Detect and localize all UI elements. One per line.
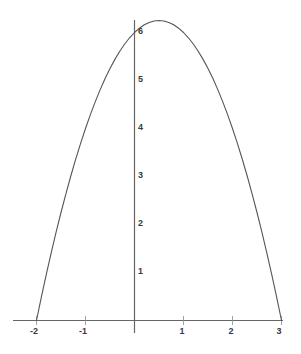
y-tick-label-5: 5 <box>138 74 143 84</box>
x-tick-label-2: 2 <box>228 326 233 336</box>
x-tick-label-3: 3 <box>276 326 281 336</box>
x-tick-label-1: 1 <box>179 326 184 336</box>
y-tick-label-6: 6 <box>138 26 143 36</box>
y-tick-label-1: 1 <box>138 266 143 276</box>
x-tick-label-minus2: -2 <box>30 326 38 336</box>
y-tick-label-2: 2 <box>138 218 143 228</box>
parabola-curve <box>37 21 282 321</box>
plot-canvas <box>0 0 301 354</box>
parabola-plot: 6 5 4 3 2 1 -2 -1 1 2 3 <box>0 0 301 354</box>
y-tick-label-3: 3 <box>138 170 143 180</box>
axes-group <box>13 20 283 333</box>
y-tick-label-4: 4 <box>138 122 143 132</box>
x-tick-label-minus1: -1 <box>79 326 87 336</box>
